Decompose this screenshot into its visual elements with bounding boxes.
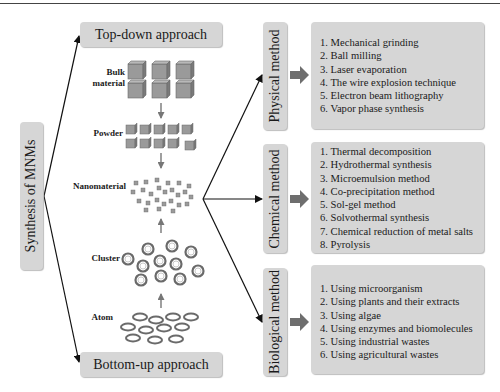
stage-label-powder: Powder [80, 128, 123, 139]
list-item: 1. Using microorganism [320, 282, 473, 295]
nanomaterial-particles [131, 178, 193, 213]
bottom-up-label: Bottom-up approach [93, 357, 208, 373]
list-item: 5. Using industrial wastes [320, 335, 473, 348]
chemical-method-label: Chemical method [267, 149, 283, 248]
physical-methods-list-box: 1. Mechanical grinding 2. Ball milling 3… [311, 22, 484, 129]
bulk-cubes [128, 61, 194, 98]
list-item: 2. Ball milling [320, 49, 456, 62]
block-arrow-physical [290, 66, 309, 84]
list-item: 6. Using agricultural wastes [320, 348, 473, 361]
physical-method-box: Physical method [263, 22, 287, 130]
list-item: 7. Chemical reduction of metal salts [320, 225, 473, 238]
bulk-line-1: Bulk [80, 67, 125, 78]
list-item: 3. Using algae [320, 309, 473, 322]
list-item: 3. Microemulsion method [320, 172, 473, 185]
cluster-rings [123, 241, 204, 286]
arrow-to-biological [203, 199, 262, 322]
list-item: 4. The wire explosion technique [320, 76, 456, 89]
physical-methods-list: 1. Mechanical grinding 2. Ball milling 3… [320, 36, 456, 116]
list-item: 6. Vapor phase synthesis [320, 102, 456, 115]
list-item: 5. Electron beam lithography [320, 89, 456, 102]
list-item: 1. Mechanical grinding [320, 36, 456, 49]
top-down-label: Top-down approach [95, 27, 207, 43]
list-item: 5. Sol-gel method [320, 198, 473, 211]
bulk-line-2: material [80, 78, 125, 89]
root-label: Synthesis of MNMs [24, 140, 40, 253]
top-down-box: Top-down approach [80, 22, 222, 47]
list-item: 3. Laser evaporation [320, 63, 456, 76]
list-item: 2. Hydrothermal synthesis [320, 158, 473, 171]
block-arrow-chemical [290, 190, 309, 208]
biological-methods-list: 1. Using microorganism 2. Using plants a… [320, 282, 473, 362]
chemical-methods-list-box: 1. Thermal decomposition 2. Hydrothermal… [311, 142, 484, 253]
list-item: 8. Pyrolysis [320, 238, 473, 251]
root-box: Synthesis of MNMs [20, 122, 43, 270]
biological-method-box: Biological method [263, 268, 287, 376]
stage-label-cluster: Cluster [80, 253, 120, 264]
stage-label-bulk: Bulk material [80, 67, 125, 89]
biological-method-label: Biological method [267, 270, 283, 374]
stage-label-atom: Atom [80, 312, 113, 323]
arrow-to-physical [203, 75, 262, 199]
bottom-up-box: Bottom-up approach [80, 352, 222, 377]
chemical-methods-list: 1. Thermal decomposition 2. Hydrothermal… [320, 145, 473, 251]
block-arrow-biological [290, 313, 309, 331]
list-item: 4. Using enzymes and biomolecules [320, 322, 473, 335]
biological-methods-list-box: 1. Using microorganism 2. Using plants a… [311, 265, 484, 374]
list-item: 6. Solvothermal synthesis [320, 211, 473, 224]
arrow-to-bottom-up [44, 196, 79, 362]
list-item: 1. Thermal decomposition [320, 145, 473, 158]
physical-method-label: Physical method [267, 30, 283, 123]
powder-cubes [126, 123, 196, 150]
stage-label-nanomaterial: Nanomaterial [60, 181, 126, 192]
chemical-method-box: Chemical method [263, 144, 287, 253]
atom-ellipses [121, 314, 198, 344]
list-item: 2. Using plants and their extracts [320, 295, 473, 308]
arrow-to-top-down [44, 36, 79, 196]
list-item: 4. Co-precipitation method [320, 185, 473, 198]
